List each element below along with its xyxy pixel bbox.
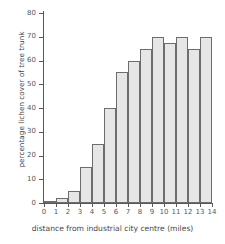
- y-axis-tick: [39, 37, 43, 38]
- x-axis-tick: [80, 204, 81, 207]
- bar: [188, 49, 200, 203]
- x-axis-tick-label: 14: [205, 208, 219, 216]
- chart-figure: percentage lichen cover of tree trunk 01…: [0, 0, 225, 244]
- bar: [152, 37, 164, 203]
- y-axis-tick: [39, 179, 43, 180]
- bar: [140, 49, 152, 203]
- bar: [128, 61, 140, 204]
- bar: [56, 198, 68, 203]
- y-axis-tick: [39, 108, 43, 109]
- x-axis-tick: [152, 204, 153, 207]
- y-axis-tick-label: 0: [6, 200, 36, 207]
- y-axis-tick: [39, 61, 43, 62]
- x-axis-tick: [200, 204, 201, 207]
- x-axis-tick: [44, 204, 45, 207]
- x-axis-tick: [128, 204, 129, 207]
- y-axis-tick-label: 60: [6, 57, 36, 64]
- y-axis-tick-label: 30: [6, 128, 36, 135]
- bar: [116, 72, 128, 203]
- bar: [176, 37, 188, 203]
- x-axis-tick: [188, 204, 189, 207]
- y-axis-tick-label: 20: [6, 152, 36, 159]
- x-axis-tick: [92, 204, 93, 207]
- y-axis-tick-label: 70: [6, 33, 36, 40]
- y-axis-tick: [39, 84, 43, 85]
- x-axis-tick: [164, 204, 165, 207]
- bar: [104, 108, 116, 203]
- x-axis-title: distance from industrial city centre (mi…: [0, 224, 225, 233]
- y-axis-tick: [39, 156, 43, 157]
- y-axis-tick-label: 10: [6, 176, 36, 183]
- x-axis-tick: [68, 204, 69, 207]
- y-axis-tick-label: 40: [6, 105, 36, 112]
- y-axis-tick: [39, 13, 43, 14]
- x-axis-tick: [116, 204, 117, 207]
- bar: [44, 201, 56, 203]
- x-axis-tick: [212, 204, 213, 207]
- x-axis-tick: [104, 204, 105, 207]
- y-axis-tick-label: 50: [6, 81, 36, 88]
- bar: [200, 37, 212, 203]
- bar: [80, 167, 92, 203]
- bar: [92, 144, 104, 203]
- y-axis-tick: [39, 203, 43, 204]
- bar: [164, 43, 176, 203]
- y-axis-tick: [39, 132, 43, 133]
- x-axis-tick: [56, 204, 57, 207]
- x-axis-tick: [176, 204, 177, 207]
- x-axis-tick: [140, 204, 141, 207]
- plot-area: [44, 13, 212, 203]
- y-axis-tick-label: 80: [6, 10, 36, 17]
- bar: [68, 191, 80, 203]
